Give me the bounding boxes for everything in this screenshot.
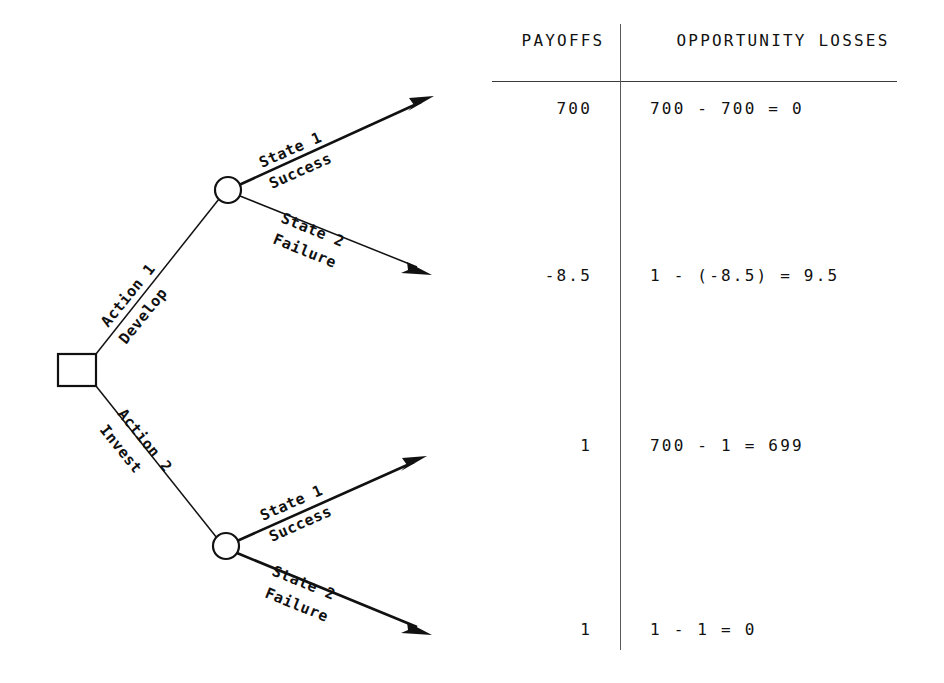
opportunity-loss-row-1: 700 - 700 = 0 (650, 99, 804, 118)
branch-lower-state-1 (237, 462, 414, 541)
column-header-opportunity-losses: OPPORTUNITY LOSSES (638, 31, 928, 50)
chance-node-upper[interactable] (215, 177, 241, 203)
payoff-value-row-1: 700 (470, 99, 592, 118)
decision-tree-graphic: Action 1 Develop Action 2 Invest State 1… (0, 0, 470, 683)
branch-upper-state-1 (239, 102, 421, 185)
arrowhead-upper-state-1 (408, 96, 434, 111)
opportunity-loss-row-2: 1 - (-8.5) = 9.5 (650, 266, 839, 285)
opportunity-loss-row-3: 700 - 1 = 699 (650, 436, 804, 455)
arrowhead-lower-state-2 (401, 622, 432, 635)
decision-node-square[interactable] (58, 354, 96, 386)
branch-action-1 (96, 199, 219, 354)
arrowhead-lower-state-1 (401, 456, 427, 471)
payoff-value-row-2: -8.5 (470, 266, 592, 285)
decision-tree-figure: Action 1 Develop Action 2 Invest State 1… (0, 0, 944, 683)
opportunity-loss-row-4: 1 - 1 = 0 (650, 620, 757, 639)
arrowhead-upper-state-2 (401, 262, 432, 275)
payoff-value-row-3: 1 (470, 436, 592, 455)
payoff-loss-table: PAYOFFS OPPORTUNITY LOSSES 700 700 - 700… (470, 0, 944, 683)
payoff-value-row-4: 1 (470, 620, 592, 639)
column-header-payoffs: PAYOFFS (493, 31, 633, 50)
header-rule (492, 81, 897, 82)
column-divider (620, 24, 621, 650)
chance-node-lower[interactable] (213, 533, 239, 559)
